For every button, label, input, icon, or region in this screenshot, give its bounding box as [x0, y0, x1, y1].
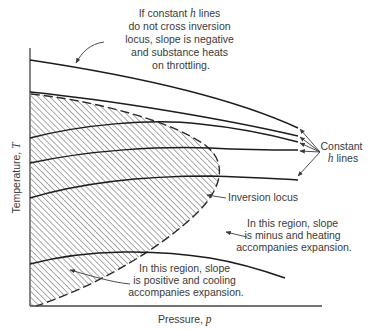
- inversion-locus-label: Inversion locus: [228, 191, 298, 203]
- top-note: If constant h lines do not cross inversi…: [125, 7, 237, 71]
- constant-h-label: Constant h lines: [321, 140, 366, 164]
- x-axis-label: Pressure, p: [158, 313, 212, 326]
- heating-region-note: In this region, slope is minus and heati…: [236, 217, 352, 253]
- constant-h-arrows: [298, 129, 320, 176]
- y-axis-label: Temperature, T: [10, 141, 22, 214]
- cooling-region-note: In this region, slope is positive and co…: [128, 262, 244, 298]
- joule-thomson-diagram: If constant h lines do not cross inversi…: [0, 0, 374, 330]
- top-note-arrow: [76, 42, 104, 63]
